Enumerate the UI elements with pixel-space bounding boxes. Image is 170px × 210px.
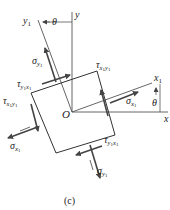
sigma-y1-top-label: σy1	[32, 55, 43, 68]
y1-axis-label: y1	[22, 15, 31, 28]
sigma-x1-left-label: σx1	[10, 140, 21, 153]
figure-caption: (c)	[64, 195, 75, 207]
y-axis-label: y	[74, 9, 80, 20]
x1-axis	[72, 83, 152, 112]
tau-x1y1-left-label: τx1y1	[3, 95, 18, 108]
stress-element-diagram: y x y1 x1 θ θ O σy1 σy1 σx1 σx1 τy1x1 τx…	[0, 0, 170, 210]
theta-label-right: θ	[152, 97, 157, 108]
tau-x1y1-right-label: τx1y1	[96, 59, 111, 72]
tau-y1x1-top-label: τy1x1	[17, 78, 32, 91]
y1-axis-bottom	[90, 160, 93, 170]
y1-axis	[38, 20, 72, 112]
tau-y1x1-top-arrow	[42, 75, 70, 84]
sigma-x1-right-label: σx1	[126, 95, 137, 108]
origin-label: O	[62, 108, 70, 120]
theta-label-top: θ	[52, 16, 57, 27]
x-axis-label: x	[163, 113, 169, 124]
x1-axis-label: x1	[153, 72, 162, 85]
sigma-x1-left-arrow	[8, 128, 35, 138]
tau-y1x1-bottom-arrow	[76, 146, 102, 155]
